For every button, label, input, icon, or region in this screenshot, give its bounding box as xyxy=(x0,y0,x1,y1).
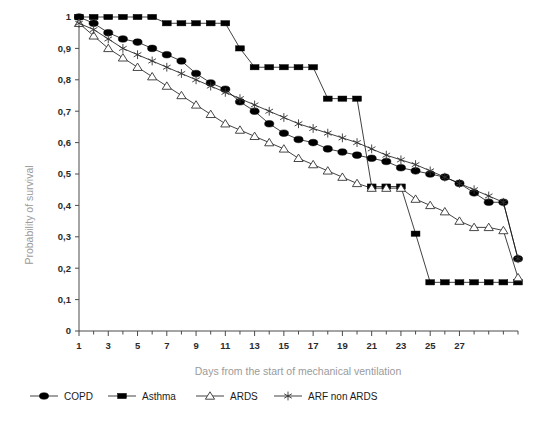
data-point-filled-circle xyxy=(265,120,274,127)
data-point-filled-square xyxy=(206,21,215,26)
legend-label: COPD xyxy=(64,391,93,402)
data-point-filled-square xyxy=(265,65,274,70)
data-point-filled-circle xyxy=(338,149,347,156)
data-point-filled-square xyxy=(250,65,259,70)
data-point-filled-circle xyxy=(396,164,405,171)
y-tick-label: 1 xyxy=(66,11,72,22)
x-tick-label: 27 xyxy=(454,340,465,351)
y-tick-label: 0,8 xyxy=(58,74,71,85)
data-point-filled-circle xyxy=(309,139,318,146)
y-tick-label: 0,1 xyxy=(58,294,72,305)
x-tick-label: 19 xyxy=(337,340,348,351)
data-point-filled-square xyxy=(221,21,230,26)
data-point-filled-square xyxy=(455,280,464,285)
legend-label: ARDS xyxy=(230,391,258,402)
data-point-filled-circle xyxy=(279,130,288,137)
y-tick-label: 0,6 xyxy=(58,137,71,148)
data-point-filled-square xyxy=(118,393,127,398)
data-point-filled-square xyxy=(440,280,449,285)
data-point-filled-square xyxy=(148,14,157,19)
y-tick-label: 0 xyxy=(66,325,71,336)
data-point-filled-square xyxy=(104,14,113,19)
data-point-filled-square xyxy=(353,96,362,101)
data-point-filled-square xyxy=(338,96,347,101)
data-point-filled-square xyxy=(162,21,171,26)
data-point-filled-circle xyxy=(118,36,127,43)
data-point-filled-circle xyxy=(39,393,48,400)
x-tick-label: 23 xyxy=(396,340,407,351)
x-tick-label: 17 xyxy=(308,340,319,351)
data-point-filled-circle xyxy=(294,136,303,143)
data-point-filled-square xyxy=(294,65,303,70)
data-point-filled-square xyxy=(89,14,98,19)
x-tick-label: 5 xyxy=(135,340,141,351)
chart-canvas: 00,10,20,30,40,50,60,70,80,91 1357911131… xyxy=(0,0,540,421)
x-tick-label: 7 xyxy=(164,340,169,351)
data-point-filled-square xyxy=(470,280,479,285)
data-point-filled-square xyxy=(484,280,493,285)
data-point-filled-circle xyxy=(177,58,186,65)
x-tick-label: 13 xyxy=(249,340,260,351)
y-tick-label: 0,9 xyxy=(58,43,71,54)
data-point-filled-square xyxy=(309,65,318,70)
legend-label: ARF non ARDS xyxy=(308,391,378,402)
x-axis-title: Days from the start of mechanical ventil… xyxy=(195,365,402,377)
y-tick-label: 0,5 xyxy=(58,168,72,179)
x-tick-label: 1 xyxy=(76,340,82,351)
data-point-filled-square xyxy=(236,46,245,51)
chart-background xyxy=(0,0,540,421)
x-tick-label: 9 xyxy=(193,340,198,351)
x-tick-label: 3 xyxy=(106,340,111,351)
x-tick-label: 15 xyxy=(279,340,290,351)
data-point-filled-square xyxy=(279,65,288,70)
data-point-filled-circle xyxy=(133,39,142,46)
data-point-filled-square xyxy=(177,21,186,26)
y-tick-label: 0,7 xyxy=(58,106,71,117)
data-point-filled-square xyxy=(323,96,332,101)
data-point-filled-square xyxy=(133,14,142,19)
legend-label: Asthma xyxy=(142,391,176,402)
data-point-filled-square xyxy=(499,280,508,285)
data-point-filled-circle xyxy=(148,45,157,52)
data-point-filled-circle xyxy=(162,51,171,58)
x-tick-label: 21 xyxy=(366,340,377,351)
data-point-filled-square xyxy=(426,280,435,285)
x-tick-label: 11 xyxy=(220,340,231,351)
data-point-filled-square xyxy=(411,231,420,236)
x-tick-label: 25 xyxy=(425,340,436,351)
data-point-filled-circle xyxy=(323,146,332,153)
data-point-filled-square xyxy=(119,14,128,19)
y-tick-label: 0,4 xyxy=(58,200,72,211)
survival-chart-figure: 00,10,20,30,40,50,60,70,80,91 1357911131… xyxy=(0,0,540,421)
data-point-filled-square xyxy=(192,21,201,26)
data-point-filled-circle xyxy=(367,155,376,162)
y-axis-title: Probability of survival xyxy=(23,165,35,264)
y-tick-label: 0,2 xyxy=(58,263,71,274)
data-point-filled-circle xyxy=(352,152,361,159)
y-tick-label: 0,3 xyxy=(58,231,71,242)
